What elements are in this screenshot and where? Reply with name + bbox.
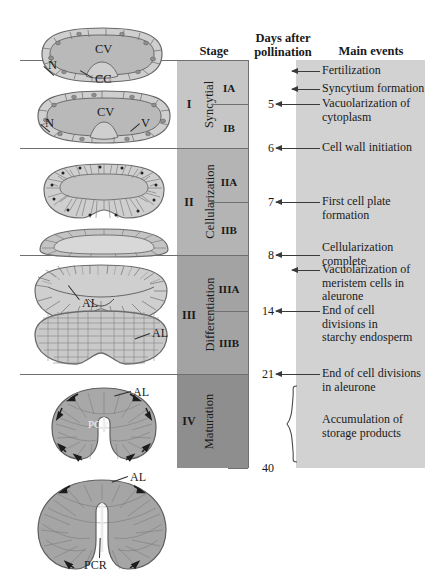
event-label-end-divisions-starchy: End of cell divisions in starchy endospe… (322, 304, 428, 345)
header-days-after-pollination: Days after pollination (240, 31, 326, 59)
event-arrow-first-cell-plate (276, 202, 320, 203)
stage-roman-i: I (179, 97, 199, 112)
label-al-2: AL (152, 326, 168, 341)
stage-band-iv: IV Maturation (177, 374, 248, 468)
substage-iia: IIA (214, 176, 244, 188)
label-cv-1: CV (95, 42, 112, 57)
day-label-8: 8 (250, 248, 274, 263)
illustration-cellularization-b (34, 228, 174, 258)
tick-day-14 (228, 311, 248, 312)
event-arrow-syncytium-formation (292, 89, 320, 90)
day-label-14: 14 (250, 304, 274, 319)
label-al-3: AL (133, 385, 149, 400)
event-arrow-end-divisions-starchy (276, 311, 320, 312)
substage-ia: IA (214, 82, 244, 94)
event-arrow-end-divisions-aleurone (276, 374, 320, 375)
substage-iib: IIB (214, 224, 244, 236)
stage-roman-iii: III (179, 307, 199, 322)
label-al-4: AL (130, 470, 146, 485)
event-arrow-cellularization-complete (276, 255, 320, 256)
event-arrow-fertilization (292, 71, 320, 72)
day-label-40: 40 (250, 461, 274, 476)
stage-name-iii-wrap: Differentiation (197, 255, 223, 374)
illustration-cellularization-a (38, 160, 170, 222)
event-label-cell-wall-initiation: Cell wall initiation (322, 141, 432, 155)
event-label-vacuolarization-cytoplasm: Vacuolarization of cytoplasm (322, 97, 428, 124)
label-cv-2: CV (97, 105, 114, 120)
event-label-syncytium-formation: Syncytium formation (322, 82, 432, 96)
stage-name-iv-wrap: Maturation (197, 374, 223, 468)
event-arrow-vacuolarization-meristem (292, 270, 320, 271)
stage-roman-ii: II (179, 194, 199, 209)
substage-iiib: IIIB (214, 337, 244, 349)
stage-band-iii: III Differentiation IIIA IIIB (177, 255, 248, 374)
header-days-line1: Days after (240, 31, 326, 45)
substage-ib: IB (214, 122, 244, 134)
event-label-first-cell-plate: First cell plate formation (322, 195, 426, 222)
tick-day-6 (228, 148, 248, 149)
event-label-accumulation: Accumulation of storage products (322, 413, 432, 440)
divider-i-ii (20, 148, 248, 149)
illustration-differentiation-b (30, 309, 172, 367)
stage-roman-iv: IV (179, 414, 199, 429)
tick-day-40 (228, 468, 248, 469)
day-label-21: 21 (250, 367, 274, 382)
event-arrow-cell-wall-initiation (276, 148, 320, 149)
day-label-7: 7 (250, 195, 274, 210)
label-cc-1: CC (95, 72, 112, 87)
header-days-line2: pollination (240, 45, 326, 59)
days-axis-line (248, 60, 249, 468)
event-label-fertilization: Fertilization (322, 64, 426, 78)
label-v-2: V (141, 116, 150, 131)
event-label-vacuolarization-meristem: Vacuolarization of meristem cells in ale… (322, 263, 430, 304)
header-stage: Stage (186, 44, 242, 58)
tick-day-7 (228, 202, 248, 203)
tick-day-8 (228, 255, 248, 256)
substage-iiia: IIIA (214, 283, 244, 295)
event-label-end-divisions-aleurone: End of cell divisions in aleurone (322, 367, 432, 394)
label-pcr-1: PCR (88, 418, 109, 430)
header-main-events: Main events (318, 44, 424, 58)
stage-name-iv: Maturation (203, 393, 218, 449)
tick-day-21 (228, 374, 248, 375)
day-label-5: 5 (250, 97, 274, 112)
day-label-6: 6 (250, 141, 274, 156)
divider-iii-iv (20, 374, 248, 375)
tick-day-5 (228, 104, 248, 105)
endosperm-development-figure: Stage Days after pollination Main events… (0, 0, 434, 580)
label-pcr-2: PCR (84, 558, 107, 573)
event-arrow-vacuolarization-cytoplasm (276, 104, 320, 105)
accumulation-brace (286, 385, 298, 463)
